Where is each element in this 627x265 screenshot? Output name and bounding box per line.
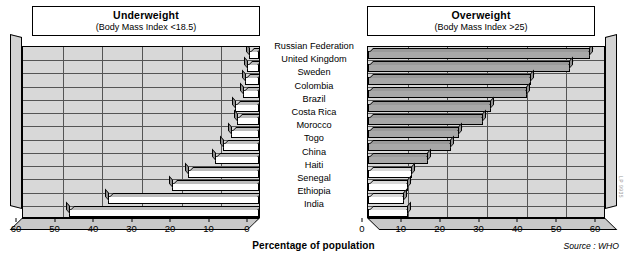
bar-end-face (212, 149, 216, 161)
bar-end-face (105, 189, 109, 201)
bar-top-face (369, 48, 594, 52)
bar-overweight (368, 117, 483, 125)
axis-tick-mark (595, 218, 596, 222)
country-label: Costa Rica (262, 106, 366, 119)
bar-underweight (223, 143, 259, 151)
chart-figure: Underweight (Body Mass Index <18.5) Russ… (0, 0, 627, 265)
axis-tick-mark (54, 218, 55, 222)
bar-top-face (250, 48, 260, 52)
axis-tick-mark (247, 218, 248, 222)
axis-tick-label: 40 (512, 223, 523, 234)
axis-tick-mark (556, 218, 557, 222)
panel-underweight-subtitle: (Body Mass Index <18.5) (96, 22, 196, 33)
bar-underweight (235, 104, 259, 112)
axis-tick-mark (517, 218, 518, 222)
country-label: Sweden (262, 66, 366, 79)
x-axis-label: Percentage of population (0, 240, 627, 251)
axis-tick-mark (439, 218, 440, 222)
bar-overweight (368, 143, 451, 151)
country-label: Ethiopia (262, 185, 366, 198)
axis-tick-label: 10 (396, 223, 407, 234)
axis-tick-mark (208, 218, 209, 222)
bar-underweight (247, 64, 259, 72)
country-label: Brazil (262, 93, 366, 106)
bar-underweight (215, 156, 259, 164)
bar-top-face (369, 193, 407, 197)
bar-top-face (248, 61, 260, 65)
bar-top-face (109, 193, 260, 197)
bar-end-face (228, 123, 232, 135)
country-label: Haiti (262, 159, 366, 172)
axis-tick-label: 10 (203, 223, 214, 234)
bar-top-face (369, 127, 463, 131)
axis-tick-label: 40 (88, 223, 99, 234)
bar-top-face (369, 180, 411, 184)
bar-end-face (458, 123, 462, 135)
panel-underweight: Underweight (Body Mass Index <18.5) (10, 6, 260, 218)
bar-underweight (243, 90, 259, 98)
bar-overweight (368, 130, 459, 138)
country-label: United Kingdom (262, 53, 366, 66)
bar-top-face (224, 140, 260, 144)
axis-tick-label: 20 (165, 223, 176, 234)
bar-underweight (231, 130, 259, 138)
bar-top-face (189, 167, 260, 171)
country-label: Colombia (262, 80, 366, 93)
country-label: Russian Federation (262, 40, 366, 53)
bar-top-face (369, 153, 431, 157)
bar-top-face (369, 74, 534, 78)
axis-tick-label: 50 (551, 223, 562, 234)
bar-top-face (369, 114, 486, 118)
gridline-horizontal (23, 100, 259, 101)
axis-tick-mark (400, 218, 401, 222)
bar-top-face (232, 127, 260, 131)
axis-tick-label: 0 (359, 223, 364, 234)
bar-top-face (238, 114, 260, 118)
bar-overweight (368, 51, 590, 59)
country-label: China (262, 146, 366, 159)
bar-top-face (369, 140, 455, 144)
bar-end-face (232, 96, 236, 108)
axis-tick-mark (16, 218, 17, 222)
axis-tick-mark (131, 218, 132, 222)
plot-area-overweight (367, 34, 617, 218)
bar-end-face (185, 162, 189, 174)
axis-tick-label: 50 (49, 223, 60, 234)
gridline-horizontal (23, 126, 259, 127)
x-axis-overweight: 0102030405060 (360, 223, 622, 237)
plot-canvas-overweight (367, 46, 605, 218)
gridline-horizontal (23, 73, 259, 74)
bar-overweight (368, 64, 570, 72)
bar-top-face (70, 206, 260, 210)
panel-overweight-subtitle: (Body Mass Index >25) (435, 22, 528, 33)
bar-end-face (66, 202, 70, 214)
bar-top-face (173, 180, 260, 184)
x-axis-underweight: 6050403020100 (0, 223, 262, 237)
bar-top-face (236, 101, 260, 105)
bar-top-face (369, 87, 530, 91)
source-note: Source : WHO (564, 241, 619, 251)
bar-overweight (368, 170, 412, 178)
bar-top-face (246, 74, 260, 78)
axis-tick-mark (478, 218, 479, 222)
bar-end-face (244, 56, 248, 68)
bar-overweight (368, 90, 527, 98)
bar-top-face (244, 87, 260, 91)
bar-end-face (240, 83, 244, 95)
bar-overweight (368, 77, 531, 85)
axis-tick-label: 60 (11, 223, 22, 234)
bar-end-face (246, 46, 250, 56)
plot-area-underweight (10, 34, 260, 218)
axis-tick-label: 0 (244, 223, 249, 234)
gridline-horizontal (23, 113, 259, 114)
bar-overweight (368, 209, 408, 217)
bar-end-face (450, 136, 454, 148)
panel-overweight-title-box: Overweight (Body Mass Index >25) (367, 6, 595, 36)
country-label: Morocco (262, 119, 366, 132)
bar-end-face (526, 83, 530, 95)
country-label: Senegal (262, 172, 366, 185)
axis-tick-label: 30 (473, 223, 484, 234)
bar-underweight (249, 51, 259, 59)
plot-side-wall-right (605, 34, 617, 209)
bar-top-face (369, 206, 411, 210)
